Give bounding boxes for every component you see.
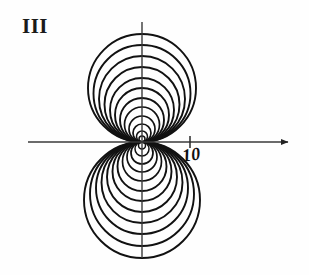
figure-container: III 10	[0, 0, 309, 275]
panel-label-III: III	[22, 16, 48, 37]
x-axis-tick-label-10: 10	[181, 144, 201, 164]
polar-circle-family-plot	[0, 0, 309, 275]
